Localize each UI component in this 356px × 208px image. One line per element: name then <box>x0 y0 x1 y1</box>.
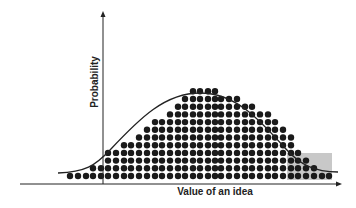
dot <box>218 150 224 156</box>
dot <box>234 165 240 171</box>
dot <box>197 127 203 133</box>
dot <box>190 104 196 110</box>
dot <box>121 150 127 156</box>
dot <box>190 134 196 140</box>
dot <box>234 111 240 117</box>
dot <box>152 150 158 156</box>
dot <box>280 150 286 156</box>
dot <box>212 111 218 117</box>
dot <box>280 173 286 179</box>
dot <box>159 127 165 133</box>
dot <box>121 165 127 171</box>
dot <box>226 173 232 179</box>
dot <box>249 134 255 140</box>
dot <box>152 173 158 179</box>
dot <box>128 173 134 179</box>
dot <box>272 150 278 156</box>
dot <box>128 165 134 171</box>
dot <box>242 165 248 171</box>
dot <box>242 150 248 156</box>
dot <box>265 134 271 140</box>
dot <box>105 157 111 163</box>
dot <box>212 88 218 94</box>
dot <box>212 127 218 133</box>
dot <box>197 165 203 171</box>
dot <box>197 173 203 179</box>
dot <box>265 157 271 163</box>
dot <box>197 111 203 117</box>
dot <box>182 150 188 156</box>
dot <box>212 165 218 171</box>
dot <box>234 157 240 163</box>
dot <box>190 150 196 156</box>
dot <box>212 134 218 140</box>
y-axis-arrow-icon <box>101 11 106 17</box>
dot <box>242 111 248 117</box>
x-axis-label: Value of an idea <box>150 186 280 197</box>
dot <box>144 173 150 179</box>
dot <box>144 134 150 140</box>
dot <box>190 119 196 125</box>
dot <box>182 104 188 110</box>
dot <box>280 165 286 171</box>
dot <box>167 165 173 171</box>
dot <box>175 127 181 133</box>
dot <box>242 119 248 125</box>
dot <box>152 134 158 140</box>
dot <box>175 173 181 179</box>
x-axis-arrow-icon <box>336 182 342 187</box>
dot <box>190 111 196 117</box>
dot <box>226 165 232 171</box>
dot <box>272 173 278 179</box>
dot <box>280 157 286 163</box>
dot <box>205 173 211 179</box>
dot <box>159 157 165 163</box>
dot <box>144 157 150 163</box>
dot <box>175 157 181 163</box>
dot <box>144 165 150 171</box>
dot <box>144 127 150 133</box>
dot <box>167 157 173 163</box>
dot <box>182 134 188 140</box>
dot <box>136 157 142 163</box>
dot <box>113 150 119 156</box>
dot <box>234 119 240 125</box>
dot <box>280 134 286 140</box>
dot <box>190 96 196 102</box>
dot <box>190 142 196 148</box>
dot <box>182 157 188 163</box>
dot <box>295 150 301 156</box>
dot <box>226 150 232 156</box>
dot <box>272 119 278 125</box>
dot <box>226 157 232 163</box>
dot <box>175 165 181 171</box>
dot <box>182 173 188 179</box>
dot <box>234 150 240 156</box>
dot <box>242 142 248 148</box>
dot <box>205 111 211 117</box>
dot <box>272 127 278 133</box>
dot <box>175 150 181 156</box>
dot <box>205 134 211 140</box>
dot <box>190 173 196 179</box>
dot <box>288 165 294 171</box>
dot <box>205 127 211 133</box>
dot <box>182 142 188 148</box>
dot <box>249 150 255 156</box>
dot <box>159 142 165 148</box>
dot <box>205 104 211 110</box>
dot <box>159 150 165 156</box>
dot <box>265 142 271 148</box>
dot <box>197 142 203 148</box>
dot <box>212 119 218 125</box>
dot <box>167 142 173 148</box>
dot <box>311 173 317 179</box>
dot <box>190 157 196 163</box>
dot <box>303 157 309 163</box>
dot <box>159 165 165 171</box>
dot <box>257 165 263 171</box>
dot <box>105 165 111 171</box>
dot <box>159 119 165 125</box>
dot <box>234 173 240 179</box>
dot <box>218 119 224 125</box>
